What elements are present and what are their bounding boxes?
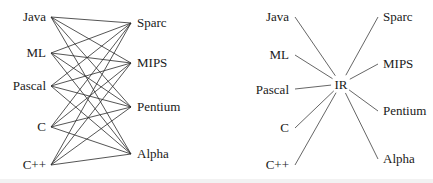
left-diagram-edges xyxy=(51,17,131,165)
right-diagram-labels: Java ML Pascal C C++ IR Sparc MIPS Penti… xyxy=(256,9,427,172)
left-source-java: Java xyxy=(23,9,46,24)
diagrams-canvas: Java ML Pascal C C++ Sparc MIPS Pentium … xyxy=(0,0,433,183)
spoke-line xyxy=(345,93,378,159)
edge-line xyxy=(51,107,131,165)
left-target-pentium: Pentium xyxy=(137,99,180,114)
right-source-cpp: C++ xyxy=(266,157,289,172)
right-source-ml: ML xyxy=(270,47,290,62)
right-target-alpha: Alpha xyxy=(383,151,415,166)
right-target-mips: MIPS xyxy=(383,56,413,71)
left-source-cpp: C++ xyxy=(23,157,46,172)
spoke-line xyxy=(295,55,333,79)
spoke-line xyxy=(295,93,336,165)
right-source-java: Java xyxy=(266,9,289,24)
left-target-mips: MIPS xyxy=(137,55,167,70)
edge-line xyxy=(51,17,131,154)
spoke-line xyxy=(295,17,335,76)
spoke-line xyxy=(349,90,378,111)
right-source-pascal: Pascal xyxy=(256,82,290,97)
left-target-alpha: Alpha xyxy=(137,146,169,161)
edge-line xyxy=(51,23,131,127)
edge-line xyxy=(51,17,131,63)
right-target-sparc: Sparc xyxy=(383,9,413,24)
edge-line xyxy=(51,154,131,165)
hub-ir-label: IR xyxy=(335,77,348,92)
edge-line xyxy=(51,17,131,23)
left-target-sparc: Sparc xyxy=(137,15,167,30)
right-source-c: C xyxy=(280,120,289,135)
bottom-band xyxy=(0,179,433,183)
spoke-line xyxy=(295,85,331,89)
left-source-ml: ML xyxy=(27,45,47,60)
left-source-pascal: Pascal xyxy=(13,78,47,93)
spoke-line xyxy=(295,91,334,128)
spoke-line xyxy=(350,64,378,79)
right-target-pentium: Pentium xyxy=(383,103,426,118)
left-source-c: C xyxy=(37,119,46,134)
